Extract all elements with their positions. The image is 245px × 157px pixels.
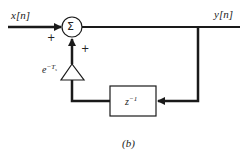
gain-block	[61, 64, 84, 80]
figure-caption: (b)	[122, 138, 135, 149]
plus-sign-left: +	[47, 33, 55, 43]
plus-sign-bottom: +	[81, 44, 89, 54]
gain-label: e−Ts	[42, 64, 57, 75]
block-diagram	[0, 0, 245, 157]
summer-sigma: Σ	[67, 21, 74, 32]
output-label: y[n]	[214, 9, 233, 20]
feedback-path-right	[158, 27, 198, 101]
feedback-path-left	[72, 80, 110, 101]
delay-label: z−1	[125, 96, 137, 107]
input-label: x[n]	[11, 10, 30, 21]
